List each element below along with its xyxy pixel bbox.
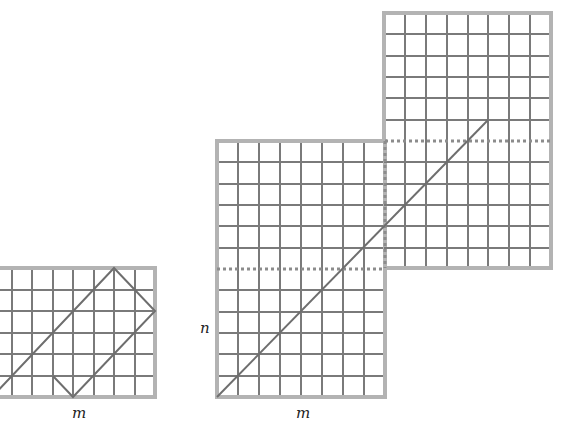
- left-m-label: m: [72, 404, 86, 422]
- right-m-label: m: [296, 404, 310, 422]
- right-n-label: n: [200, 319, 210, 337]
- diagram-canvas: [0, 0, 578, 439]
